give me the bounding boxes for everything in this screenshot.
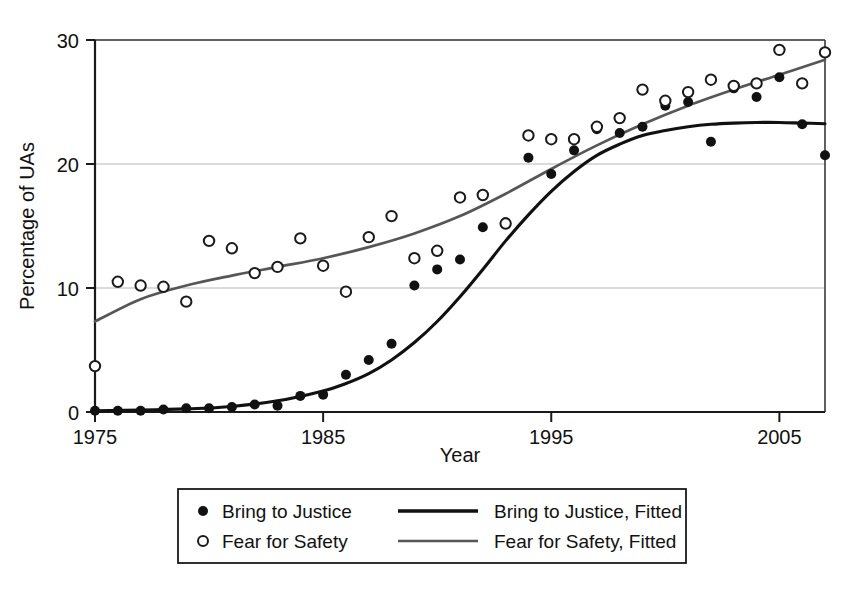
x-tick-label-2005: 2005 — [757, 426, 802, 448]
data-point-fear-for-safety — [135, 280, 145, 290]
x-tick-label-1975: 1975 — [73, 426, 118, 448]
data-point-bring-to-justice — [546, 169, 556, 179]
y-tick-label-10: 10 — [57, 278, 79, 300]
chart-figure: 0102030 1975198519952005 Year Percentage… — [0, 0, 847, 590]
data-point-bring-to-justice — [181, 403, 191, 413]
x-tick-label-1995: 1995 — [529, 426, 574, 448]
data-point-fear-for-safety — [113, 277, 123, 287]
data-point-fear-for-safety — [386, 211, 396, 221]
data-point-bring-to-justice — [432, 264, 442, 274]
data-point-fear-for-safety — [181, 296, 191, 306]
data-point-bring-to-justice — [158, 405, 168, 415]
legend-marker-open-circle — [198, 536, 208, 546]
legend-marker-filled-circle — [198, 506, 208, 516]
data-point-bring-to-justice — [706, 137, 716, 147]
y-tick-label-20: 20 — [57, 154, 79, 176]
data-point-bring-to-justice — [820, 150, 830, 160]
data-point-bring-to-justice — [387, 339, 397, 349]
data-point-bring-to-justice — [409, 281, 419, 291]
data-point-fear-for-safety — [546, 134, 556, 144]
data-point-fear-for-safety — [204, 236, 214, 246]
data-point-fear-for-safety — [364, 232, 374, 242]
data-point-bring-to-justice — [113, 406, 123, 416]
data-point-fear-for-safety — [158, 282, 168, 292]
data-point-fear-for-safety — [523, 130, 533, 140]
data-point-fear-for-safety — [660, 96, 670, 106]
y-tick-label-0: 0 — [68, 402, 79, 424]
data-point-bring-to-justice — [455, 254, 465, 264]
data-point-bring-to-justice — [569, 145, 579, 155]
data-point-bring-to-justice — [615, 128, 625, 138]
data-point-bring-to-justice — [227, 402, 237, 412]
data-points-group — [90, 45, 830, 416]
data-point-bring-to-justice — [90, 406, 100, 416]
data-point-bring-to-justice — [797, 119, 807, 129]
data-point-fear-for-safety — [478, 190, 488, 200]
x-axis-title: Year — [440, 444, 481, 466]
data-point-bring-to-justice — [341, 370, 351, 380]
data-point-fear-for-safety — [90, 361, 100, 371]
data-point-bring-to-justice — [364, 355, 374, 365]
data-point-fear-for-safety — [774, 45, 784, 55]
data-point-bring-to-justice — [774, 72, 784, 82]
data-point-fear-for-safety — [295, 233, 305, 243]
data-point-fear-for-safety — [751, 78, 761, 88]
data-point-bring-to-justice — [478, 222, 488, 232]
legend: Bring to Justice Fear for Safety Bring t… — [178, 489, 686, 563]
data-point-bring-to-justice — [318, 390, 328, 400]
data-point-fear-for-safety — [706, 74, 716, 84]
fitted-curve-bring-to-justice — [95, 122, 825, 410]
x-axis-ticks: 1975198519952005 — [73, 412, 802, 448]
fitted-curves-group — [95, 60, 825, 411]
data-point-fear-for-safety — [820, 47, 830, 57]
legend-label-bring-to-justice: Bring to Justice — [222, 501, 352, 522]
data-point-fear-for-safety — [729, 81, 739, 91]
data-point-bring-to-justice — [752, 92, 762, 102]
data-point-bring-to-justice — [523, 153, 533, 163]
data-point-fear-for-safety — [592, 122, 602, 132]
data-point-bring-to-justice — [295, 391, 305, 401]
data-point-fear-for-safety — [637, 84, 647, 94]
legend-label-fear-for-safety-fitted: Fear for Safety, Fitted — [494, 531, 676, 552]
data-point-fear-for-safety — [227, 243, 237, 253]
data-point-bring-to-justice — [638, 122, 648, 132]
data-point-fear-for-safety — [614, 113, 624, 123]
data-point-fear-for-safety — [455, 192, 465, 202]
data-point-fear-for-safety — [409, 253, 419, 263]
chart-canvas: 0102030 1975198519952005 Year Percentage… — [0, 0, 847, 590]
legend-label-bring-to-justice-fitted: Bring to Justice, Fitted — [494, 501, 682, 522]
y-tick-label-30: 30 — [57, 30, 79, 52]
data-point-bring-to-justice — [204, 403, 214, 413]
data-point-bring-to-justice — [683, 97, 693, 107]
legend-label-fear-for-safety: Fear for Safety — [222, 531, 348, 552]
data-point-bring-to-justice — [136, 406, 146, 416]
data-point-fear-for-safety — [569, 134, 579, 144]
x-tick-label-1985: 1985 — [301, 426, 346, 448]
data-point-fear-for-safety — [318, 260, 328, 270]
data-point-fear-for-safety — [683, 87, 693, 97]
y-axis-title: Percentage of UAs — [16, 142, 38, 310]
data-point-bring-to-justice — [273, 401, 283, 411]
data-point-fear-for-safety — [341, 287, 351, 297]
data-point-bring-to-justice — [250, 400, 260, 410]
fitted-curve-fear-for-safety — [95, 60, 825, 322]
data-point-fear-for-safety — [432, 246, 442, 256]
data-point-fear-for-safety — [249, 268, 259, 278]
data-point-fear-for-safety — [272, 262, 282, 272]
data-point-fear-for-safety — [797, 78, 807, 88]
data-point-fear-for-safety — [500, 218, 510, 228]
